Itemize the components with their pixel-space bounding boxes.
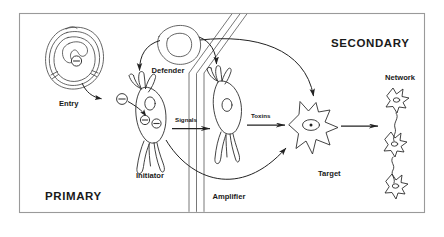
entry-cell <box>46 27 104 89</box>
amplifier-label: Amplifier <box>213 192 246 201</box>
circled-minus-icon <box>71 56 81 66</box>
secondary-section-label: SECONDARY <box>331 37 409 49</box>
arrow-defender-to-target <box>200 39 314 96</box>
primary-section-label: PRIMARY <box>45 190 102 202</box>
network-label: Network <box>385 73 416 82</box>
arrow-signal-to-initiator <box>128 102 146 117</box>
signals-label: Signals <box>175 116 198 123</box>
defender-label: Defender <box>152 66 185 75</box>
initiator-label: Initiator <box>136 171 164 180</box>
initiator-circled-minus-2-icon <box>152 119 161 128</box>
network-chain <box>384 88 409 199</box>
defender-cell <box>158 25 201 64</box>
network-cell-2 <box>384 132 407 157</box>
released-circled-minus-icon <box>117 94 128 105</box>
network-cell-3 <box>385 174 408 199</box>
toxins-flow: Toxins <box>247 112 285 125</box>
entry-label: Entry <box>59 99 79 108</box>
diagram-canvas: Entry Defender <box>0 0 444 237</box>
initiator-cell <box>129 72 166 174</box>
target-label: Target <box>318 169 341 178</box>
toxins-label: Toxins <box>251 112 271 119</box>
network-cell-1 <box>386 88 409 113</box>
initiator-circled-minus-1-icon <box>140 115 149 124</box>
amplifier-cell <box>207 66 241 164</box>
arrow-entry-to-signal <box>82 83 102 99</box>
barrier <box>189 14 247 212</box>
schematic-diagram: Entry Defender <box>0 0 444 237</box>
target-cell <box>289 102 338 155</box>
